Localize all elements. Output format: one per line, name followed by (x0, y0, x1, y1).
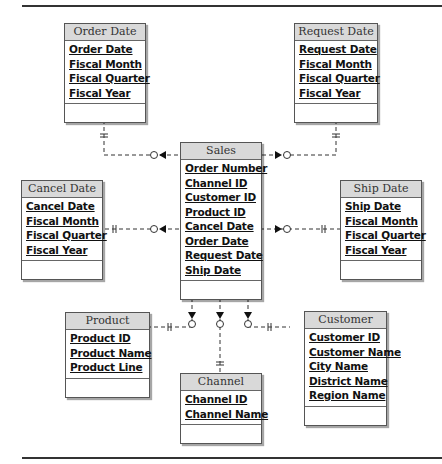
entity-title: Cancel Date (22, 181, 102, 198)
attribute: Channel ID (185, 392, 257, 407)
entity-product[interactable]: Product Product ID Product Name Product … (65, 312, 150, 398)
attribute: Fiscal Quarter (26, 228, 98, 243)
bottom-rule (22, 457, 442, 459)
entity-title: Request Date (295, 24, 377, 41)
attribute: Fiscal Month (69, 57, 141, 72)
attribute: Ship Date (185, 263, 257, 278)
entity-footer (181, 425, 261, 443)
entity-footer (181, 281, 261, 299)
entity-sales[interactable]: Sales Order Number Channel ID Customer I… (180, 142, 262, 300)
entity-footer (65, 104, 145, 122)
attribute: Fiscal Year (26, 243, 98, 258)
attribute: Product ID (70, 331, 145, 346)
entity-request-date[interactable]: Request Date Request Date Fiscal Month F… (294, 23, 378, 123)
entity-order-date[interactable]: Order Date Order Date Fiscal Month Fisca… (64, 23, 146, 123)
entity-title: Sales (181, 143, 261, 160)
attribute: Customer ID (309, 330, 382, 345)
attribute: Request Date (299, 42, 373, 57)
attribute: Fiscal Month (299, 57, 373, 72)
entity-title: Product (66, 313, 149, 330)
attribute: Cancel Date (185, 219, 257, 234)
attribute: Order Date (185, 234, 257, 249)
attribute: Order Number (185, 161, 257, 176)
entity-ship-date[interactable]: Ship Date Ship Date Fiscal Month Fiscal … (340, 180, 422, 280)
attribute: Fiscal Quarter (299, 71, 373, 86)
attribute: Order Date (69, 42, 141, 57)
attribute: Fiscal Year (345, 243, 417, 258)
entity-title: Order Date (65, 24, 145, 41)
attribute: Ship Date (345, 199, 417, 214)
attribute: Fiscal Year (299, 86, 373, 101)
attribute: Product Name (70, 346, 145, 361)
entity-footer (305, 407, 386, 425)
attribute: Cancel Date (26, 199, 98, 214)
entity-footer (295, 104, 377, 122)
attribute: Request Date (185, 248, 257, 263)
attribute: Fiscal Month (26, 214, 98, 229)
entity-title: Channel (181, 374, 261, 391)
entity-customer[interactable]: Customer Customer ID Customer Name City … (304, 311, 387, 426)
attribute: Fiscal Quarter (69, 71, 141, 86)
attribute: Channel Name (185, 407, 257, 422)
entity-footer (66, 379, 149, 397)
entity-title: Customer (305, 312, 386, 329)
attribute: Customer Name (309, 345, 382, 360)
attribute: Fiscal Quarter (345, 228, 417, 243)
attribute: Product Line (70, 360, 145, 375)
entity-cancel-date[interactable]: Cancel Date Cancel Date Fiscal Month Fis… (21, 180, 103, 280)
attribute: Product ID (185, 205, 257, 220)
attribute: Fiscal Year (69, 86, 141, 101)
attribute: Customer ID (185, 190, 257, 205)
attribute: District Name (309, 374, 382, 389)
entity-title: Ship Date (341, 181, 421, 198)
attribute: City Name (309, 359, 382, 374)
entity-footer (22, 261, 102, 279)
attribute: Fiscal Month (345, 214, 417, 229)
entity-footer (341, 261, 421, 279)
attribute: Region Name (309, 388, 382, 403)
attribute: Channel ID (185, 176, 257, 191)
entity-channel[interactable]: Channel Channel ID Channel Name (180, 373, 262, 444)
